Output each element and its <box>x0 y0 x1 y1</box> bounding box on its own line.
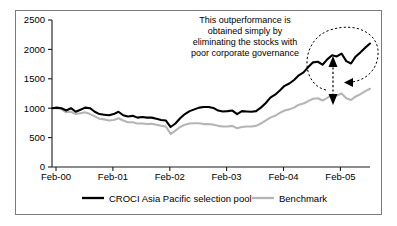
x-axis-ticks: Feb-00 Feb-01 Feb-02 Feb-03 Feb-04 Feb-0… <box>41 167 356 182</box>
series-line-benchmark <box>52 89 370 134</box>
legend-label-benchmark: Benchmark <box>279 193 327 204</box>
annotation-callout: This outperformance is obtained simply b… <box>191 15 299 58</box>
gap-arrowhead-down-icon <box>329 94 338 105</box>
x-tick-label-feb-02: Feb-02 <box>155 171 185 182</box>
annotation-line-3: eliminating the stocks with <box>193 37 298 47</box>
y-axis-ticks: 0 500 1000 1500 2000 2500 <box>24 14 52 172</box>
y-tick-label-500: 500 <box>29 132 45 143</box>
x-tick-label-feb-05: Feb-05 <box>325 171 355 182</box>
y-tick-label-2000: 2000 <box>24 44 45 55</box>
x-tick-label-feb-04: Feb-04 <box>268 171 298 182</box>
chart-figure: 0 500 1000 1500 2000 2500 Feb-00 Feb-01 … <box>0 0 397 226</box>
lasso-pointer-icon <box>307 27 378 90</box>
y-tick-label-2500: 2500 <box>24 14 45 25</box>
annotation-line-1: This outperformance is <box>199 15 291 25</box>
x-tick-label-feb-00: Feb-00 <box>41 171 71 182</box>
annotation-line-4: poor corporate governance <box>191 48 299 58</box>
legend-label-croci: CROCI Asia Pacific selection pool <box>109 193 252 204</box>
annotation-line-2: obtained simply by <box>208 26 283 36</box>
chart-legend: CROCI Asia Pacific selection pool Benchm… <box>82 193 327 204</box>
y-tick-label-1500: 1500 <box>24 73 45 84</box>
lasso-arrowhead-icon <box>344 78 353 87</box>
line-chart: 0 500 1000 1500 2000 2500 Feb-00 Feb-01 … <box>0 0 397 226</box>
y-tick-label-1000: 1000 <box>24 103 45 114</box>
x-tick-label-feb-03: Feb-03 <box>212 171 242 182</box>
x-tick-label-feb-01: Feb-01 <box>98 171 128 182</box>
